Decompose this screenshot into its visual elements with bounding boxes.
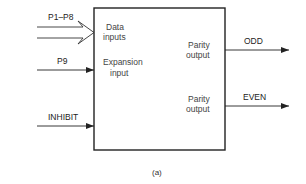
parity-block-diagram: P1–P8 P9 INHIBIT Data inputs Expansion i… <box>0 0 306 184</box>
parity-output-even-label-2: output <box>186 104 210 114</box>
figure-caption: (a) <box>152 168 162 177</box>
signal-label-p1-p8: P1–P8 <box>48 12 74 22</box>
bus-arrow-p1-p8 <box>37 21 94 44</box>
signal-label-inhibit: INHIBIT <box>48 112 78 122</box>
parity-output-even-label-1: Parity <box>188 94 210 104</box>
expansion-input-label-2: input <box>110 68 129 78</box>
signal-label-even: EVEN <box>243 92 266 102</box>
data-inputs-label-1: Data <box>106 22 124 32</box>
data-inputs-label-2: inputs <box>103 32 126 42</box>
parity-output-odd-label-1: Parity <box>188 40 210 50</box>
signal-label-odd: ODD <box>244 36 263 46</box>
signal-label-p9: P9 <box>57 56 68 66</box>
parity-output-odd-label-2: output <box>186 50 210 60</box>
expansion-input-label-1: Expansion <box>103 57 143 67</box>
